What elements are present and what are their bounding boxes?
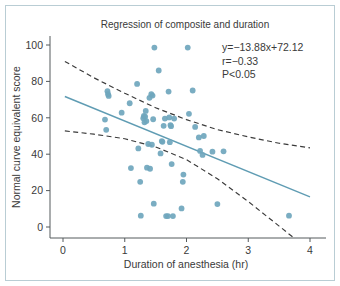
- data-point: [149, 142, 155, 148]
- data-point: [151, 201, 157, 207]
- data-point: [135, 145, 141, 151]
- y-tick-label-20: 20: [31, 184, 43, 196]
- data-point: [106, 93, 112, 99]
- data-point: [103, 127, 109, 133]
- data-point: [171, 116, 177, 122]
- annotation-correlation: r=−0.33: [222, 55, 258, 67]
- confidence-band-lower: [65, 131, 293, 237]
- x-tick-label-4: 4: [307, 244, 313, 256]
- data-point: [185, 45, 191, 51]
- data-point: [137, 179, 143, 185]
- data-point: [166, 89, 172, 95]
- data-point: [214, 201, 220, 207]
- annotation-equation: y=−13.88x+72.12: [222, 41, 304, 53]
- data-point: [128, 165, 134, 171]
- x-tick-label-2: 2: [184, 244, 190, 256]
- data-point: [196, 135, 202, 141]
- data-point: [221, 148, 227, 154]
- data-point: [158, 151, 164, 157]
- data-point: [166, 115, 172, 121]
- data-point: [190, 88, 196, 94]
- data-point: [186, 111, 192, 117]
- y-tick-label-100: 100: [25, 39, 43, 51]
- data-point: [143, 118, 149, 124]
- y-tick-label-60: 60: [31, 112, 43, 124]
- annotation-pvalue: P<0.05: [222, 68, 256, 80]
- data-point: [143, 108, 149, 114]
- data-point: [170, 213, 176, 219]
- data-point: [150, 93, 156, 99]
- x-tick-label-3: 3: [245, 244, 251, 256]
- figure-container: 02040608010001234Regression of composite…: [0, 0, 340, 286]
- data-point: [156, 68, 162, 74]
- data-point: [160, 139, 166, 145]
- data-point: [179, 206, 185, 212]
- data-point: [201, 133, 207, 139]
- data-point: [138, 213, 144, 219]
- y-tick-label-0: 0: [37, 221, 43, 233]
- scatter-plot: 02040608010001234Regression of composite…: [0, 0, 340, 286]
- data-point: [169, 161, 175, 167]
- x-axis-label: Duration of anesthesia (hr): [124, 258, 248, 270]
- data-point: [286, 213, 292, 219]
- data-point: [168, 123, 174, 129]
- data-point: [161, 123, 167, 129]
- data-point: [150, 116, 156, 122]
- data-point: [119, 110, 125, 116]
- data-point: [180, 179, 186, 185]
- axis-lines: [50, 36, 326, 238]
- data-point: [102, 117, 108, 123]
- data-point: [210, 149, 216, 155]
- data-point: [134, 81, 140, 87]
- y-tick-label-80: 80: [31, 75, 43, 87]
- x-tick-label-1: 1: [122, 244, 128, 256]
- data-point: [200, 152, 206, 158]
- data-point: [192, 124, 198, 130]
- data-point: [151, 45, 157, 51]
- y-axis-label: Normal curve equivalent score: [10, 66, 22, 208]
- data-point: [167, 139, 173, 145]
- x-tick-label-0: 0: [60, 244, 66, 256]
- data-point: [127, 100, 133, 106]
- data-point: [147, 166, 153, 172]
- chart-title: Regression of composite and duration: [101, 19, 269, 30]
- data-point: [165, 213, 171, 219]
- y-tick-label-40: 40: [31, 148, 43, 160]
- data-point: [181, 172, 187, 178]
